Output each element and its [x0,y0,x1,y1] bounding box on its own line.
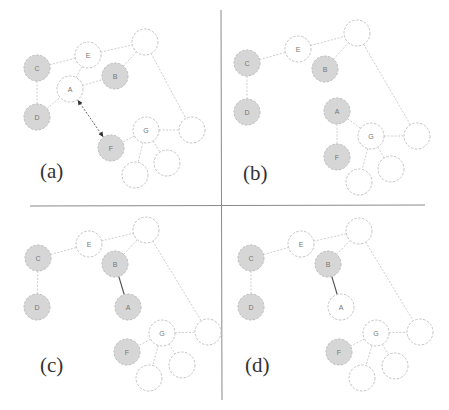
node-label: E [296,46,301,53]
node-C: C [24,55,50,81]
panel-c: CEBDAGF(c) [24,217,221,391]
edge-E-T [102,233,134,241]
node-empty [378,156,404,182]
edge-A-G [347,119,360,129]
empty-node-circle [404,123,430,149]
empty-node-circle [133,217,159,243]
node-label: A [126,304,131,311]
node-empty [349,365,375,391]
node-label: F [335,154,339,161]
node-empty [195,319,221,345]
node-label: A [335,108,340,115]
edge-B-T [124,52,137,67]
empty-node-circle [346,218,372,244]
node-label: A [339,304,344,311]
empty-node-circle [122,162,148,188]
edge-G-BR [382,344,388,354]
node-empty [404,123,430,149]
panel-a: CEBADGF(a) [24,29,205,188]
node-label: C [35,255,40,262]
node-label: B [113,261,118,268]
node-label: C [248,255,253,262]
edge-T-R [153,241,201,321]
panel-label-b: (b) [243,161,268,185]
edge-B-T [124,240,137,255]
edge-G-BR [169,344,175,354]
node-label: C [34,65,39,72]
node-G: G [358,123,384,149]
node-label: E [299,241,304,248]
panel-label-c: (c) [40,353,63,377]
edge-D-A [47,97,60,108]
node-A: A [328,294,354,320]
edge-T-R [151,53,186,118]
empty-node-circle [349,365,375,391]
graph-diagram: CEBADGF(a)CEBDAGF(b)CEBDAGF(c)CEBDAGF(d) [0,0,449,410]
panel-label-d: (d) [245,353,270,377]
node-E: E [76,231,102,257]
empty-node-circle [154,150,180,176]
empty-node-circle [195,319,221,345]
edge-G-BL [366,345,372,365]
node-label: G [373,330,378,337]
empty-node-circle [179,117,205,143]
empty-node-circle [346,169,372,195]
node-F: F [98,135,124,161]
node-E: E [288,231,314,257]
edge-B-T [334,43,349,60]
empty-node-circle [169,352,195,378]
edge-C-E [51,247,77,254]
node-D: D [24,294,50,320]
node-F: F [114,339,140,365]
edge-E-T [314,234,347,241]
node-A: A [57,76,83,102]
node-empty [382,353,408,379]
panel-d: CEBDAGF(d) [238,218,433,391]
empty-node-circle [132,29,158,55]
node-label: D [244,109,249,116]
node-E: E [75,42,101,68]
edge-A-B [82,80,102,86]
empty-node-circle [407,319,433,345]
node-label: B [113,73,118,80]
node-G: G [149,320,175,346]
edge-T-R [366,242,414,321]
node-empty [136,365,162,391]
node-E: E [285,36,311,62]
node-B: B [312,56,338,82]
node-D: D [238,294,264,320]
node-label: G [143,127,148,134]
edge-E-A [76,66,82,77]
edge-E-T [311,36,345,45]
edge-G-F [123,136,135,142]
move-arrow-A-F [78,100,103,136]
empty-node-circle [136,365,162,391]
panel-label-a: (a) [40,159,63,183]
node-label: G [159,330,164,337]
node-label: E [87,241,92,248]
node-label: G [368,133,373,140]
node-F: F [326,339,352,365]
node-B: B [102,63,128,89]
vertical-divider [221,10,222,400]
node-empty [346,218,372,244]
edge-T-R [364,44,411,125]
node-label: D [34,114,39,121]
edge-G-BL [138,143,143,163]
empty-node-circle [382,353,408,379]
node-F: F [324,144,350,170]
node-label: C [244,60,249,67]
node-B: B [102,251,128,277]
edge-G-F [138,339,150,346]
node-label: F [109,145,113,152]
highlight-edge-B-A [332,276,337,294]
node-empty [154,150,180,176]
node-label: B [323,66,328,73]
node-label: B [326,261,331,268]
node-A: A [324,98,350,124]
node-empty [132,29,158,55]
edge-B-T [337,240,350,254]
node-C: C [238,245,264,271]
panel-b: CEBDAGF(b) [234,20,430,195]
empty-node-circle [344,20,370,46]
